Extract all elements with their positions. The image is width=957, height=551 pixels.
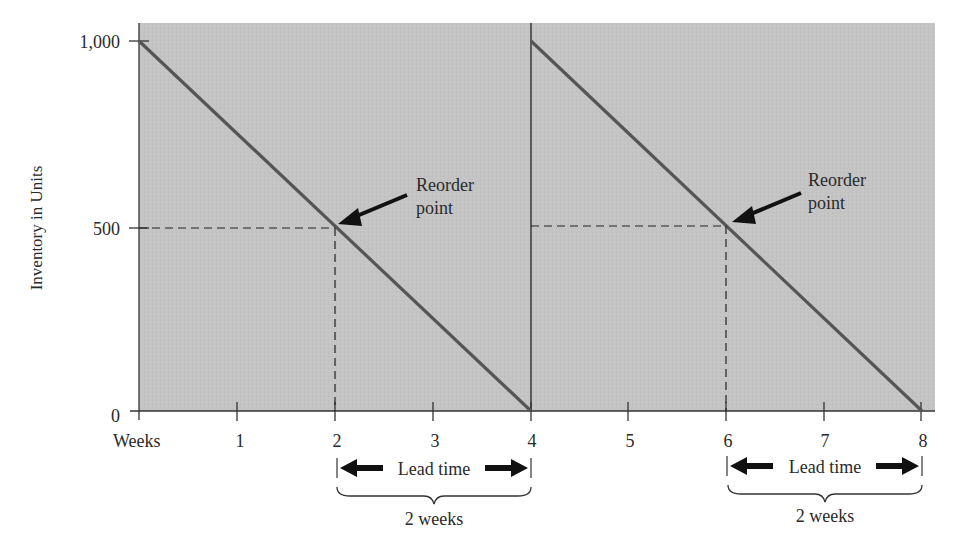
x-tick-label-3: 3 [431, 431, 440, 451]
lead-time-annotation-2: Lead time 2 weeks [727, 456, 922, 526]
y-tick-label-0: 0 [111, 406, 120, 426]
x-tick-label-7: 7 [821, 431, 830, 451]
arrow-left-icon [340, 459, 383, 477]
brace-icon [337, 487, 531, 504]
svg-text:Reorder: Reorder [416, 175, 474, 195]
x-tick-label-6: 6 [724, 431, 733, 451]
x-axis-label: Weeks [113, 431, 161, 451]
x-tick-label-5: 5 [626, 431, 635, 451]
y-tick-label-1000: 1,000 [80, 32, 121, 52]
y-tick-label-500: 500 [93, 219, 120, 239]
inventory-chart: 1,000 500 0 Inventory in Units Weeks 1 2… [0, 0, 957, 551]
plot-area [139, 23, 935, 411]
x-tick-label-1: 1 [236, 431, 245, 451]
svg-text:point: point [416, 198, 453, 218]
svg-text:Lead time: Lead time [789, 457, 861, 477]
svg-text:point: point [808, 193, 845, 213]
arrow-left-icon [730, 457, 773, 475]
svg-text:Lead time: Lead time [398, 459, 470, 479]
arrow-right-icon [485, 459, 528, 477]
svg-text:2 weeks: 2 weeks [405, 509, 463, 529]
svg-text:Reorder: Reorder [808, 170, 866, 190]
x-tick-label-8: 8 [919, 431, 928, 451]
brace-icon [728, 485, 922, 502]
y-axis-label: Inventory in Units [27, 166, 46, 291]
arrow-right-icon [876, 457, 919, 475]
lead-time-annotation-1: Lead time 2 weeks [337, 458, 531, 529]
svg-text:2 weeks: 2 weeks [796, 506, 854, 526]
x-tick-label-2: 2 [333, 431, 342, 451]
x-tick-label-4: 4 [528, 431, 537, 451]
